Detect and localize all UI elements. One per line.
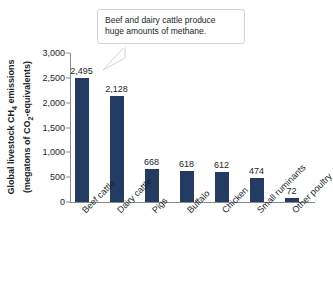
y-axis-ticks: 05001,0001,5002,0002,5003,000 — [36, 45, 70, 210]
y-tick-label: 1,000 — [42, 147, 65, 157]
y-tick-label: 500 — [50, 172, 65, 182]
callout-line-2: huge amounts of methane. — [105, 26, 237, 37]
ch4-subscript: 4 — [11, 106, 18, 110]
y-axis-title: Global livestock CH4 emissions (megatons… — [8, 42, 34, 212]
bar-value-label: 668 — [144, 157, 159, 167]
bar-value-label: 2,128 — [105, 84, 128, 94]
y-tick-label: 2,500 — [42, 73, 65, 83]
bar — [250, 178, 264, 202]
y-axis-title-line2-pre: (megatons of CO — [22, 120, 32, 193]
y-axis-title-line2-post: -equivalents) — [22, 61, 32, 117]
callout-annotation: Beef and dairy cattle produce huge amoun… — [97, 9, 245, 44]
bar — [75, 78, 89, 202]
y-tick-label: 3,000 — [42, 48, 65, 58]
callout-tail-icon — [101, 46, 127, 72]
callout-line-1: Beef and dairy cattle produce — [105, 15, 237, 26]
bar — [215, 172, 229, 202]
co2-subscript: 2 — [27, 117, 34, 121]
y-tick-label: 2,000 — [42, 98, 65, 108]
bar-value-label: 2,495 — [70, 66, 93, 76]
y-axis-title-line1-pre: Global livestock CH — [6, 110, 16, 195]
y-tick-label: 1,500 — [42, 123, 65, 133]
bar-value-label: 618 — [179, 159, 194, 169]
bar — [180, 171, 194, 202]
bar-value-label: 612 — [214, 160, 229, 170]
y-tick-label: 0 — [60, 197, 65, 207]
bar-value-label: 474 — [249, 166, 264, 176]
y-axis-title-line1-post: emissions — [6, 60, 16, 107]
